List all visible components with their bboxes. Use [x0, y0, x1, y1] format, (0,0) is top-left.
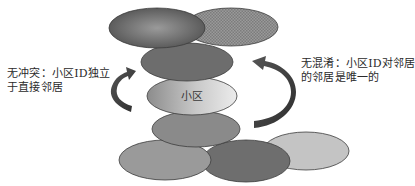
no-collision-caption-line-2: 于直接邻居 — [7, 81, 110, 95]
no-confusion-caption-line-1: 无混淆：小区ID对邻居 — [301, 57, 415, 71]
center-cell-label: 小区 — [181, 90, 203, 103]
cell-row4 — [152, 111, 240, 147]
cell-bottom-middle — [202, 140, 290, 182]
curved-arrow-left-icon — [111, 67, 136, 112]
cell-row2 — [141, 43, 233, 81]
no-confusion-caption: 无混淆：小区ID对邻居 的邻居是唯一的 — [301, 57, 415, 85]
cell-top-left — [109, 8, 205, 48]
no-confusion-caption-line-2: 的邻居是唯一的 — [301, 71, 415, 85]
curved-arrow-right-icon — [252, 56, 296, 128]
no-collision-caption-line-1: 无冲突：小区ID独立 — [7, 67, 110, 81]
no-collision-caption: 无冲突：小区ID独立 于直接邻居 — [7, 67, 110, 95]
